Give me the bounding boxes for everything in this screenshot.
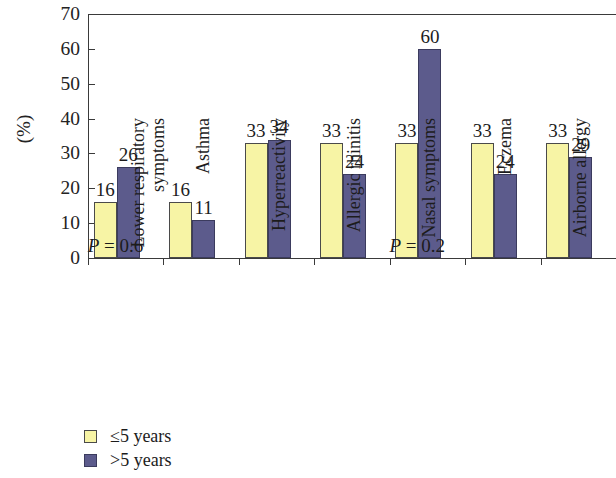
x-axis-category-label: Eczema — [495, 118, 515, 268]
legend-label: >5 years — [110, 448, 172, 472]
y-axis-tick-label: 20 — [36, 178, 80, 198]
y-axis-title: (%) — [13, 99, 35, 159]
p-value-annotation: P = 0.6 — [88, 236, 144, 255]
x-axis-tick — [239, 258, 240, 265]
x-axis-category-label-line: symptoms — [148, 118, 168, 268]
x-axis-tick — [314, 258, 315, 265]
x-axis-category-label-line: Lower respiratory — [128, 118, 148, 247]
p-value-symbol: P — [389, 235, 401, 256]
x-axis-category-label: Airborne allergy — [570, 118, 590, 268]
y-axis-tick-label: 50 — [36, 74, 80, 94]
p-value-number: = 0.6 — [99, 235, 143, 256]
y-axis-tick-label: 10 — [36, 213, 80, 233]
y-axis-tick-label: 60 — [36, 39, 80, 59]
bar-chart-figure: (%) 010203040506070 16261611333433243360… — [0, 0, 616, 478]
legend-color-swatch — [84, 454, 97, 467]
bar-value-label: 60 — [410, 27, 450, 46]
p-value-number: = 0.2 — [401, 235, 445, 256]
legend-label: ≤5 years — [110, 424, 171, 448]
bar — [245, 143, 268, 258]
chart-legend: ≤5 years>5 years — [84, 424, 172, 472]
x-axis-category-label-line: Asthma — [193, 118, 213, 174]
p-value-annotation: P = 0.2 — [389, 236, 445, 255]
y-axis-tick-label: 40 — [36, 109, 80, 129]
x-axis-category-label: Allergic rhinitis — [344, 118, 364, 268]
x-axis-category-label-line: Eczema — [495, 118, 515, 175]
legend-color-swatch — [84, 430, 97, 443]
x-axis-category-label-line: Hyperreactivity — [269, 118, 289, 231]
x-axis-category-label: Asthma — [193, 118, 213, 268]
x-axis-category-label-line: Airborne allergy — [570, 118, 590, 237]
x-axis-tick — [390, 258, 391, 265]
x-axis-tick — [88, 258, 89, 265]
legend-item: ≤5 years — [84, 424, 172, 448]
y-axis-tick-label: 70 — [36, 4, 80, 24]
x-axis-category-label-line: Allergic rhinitis — [344, 118, 364, 232]
p-value-symbol: P — [88, 235, 100, 256]
legend-item: >5 years — [84, 448, 172, 472]
x-axis-category-label: Hyperreactivity — [269, 118, 289, 268]
x-axis-category-label-line: Nasal symptoms — [419, 118, 439, 238]
y-axis-tick-label: 30 — [36, 143, 80, 163]
y-axis-tick-label: 0 — [36, 248, 80, 268]
x-axis-tick — [541, 258, 542, 265]
bar — [546, 143, 569, 258]
x-axis-tick — [465, 258, 466, 265]
